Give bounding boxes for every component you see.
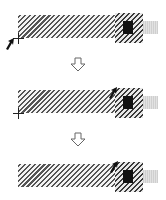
handle-knob bbox=[123, 96, 133, 109]
slider-track[interactable] bbox=[18, 90, 115, 113]
step-3 bbox=[0, 149, 166, 200]
down-arrow-icon bbox=[70, 132, 86, 147]
cursor-arrow-icon bbox=[110, 161, 119, 173]
crosshair-icon bbox=[13, 108, 24, 119]
handle-knob bbox=[123, 21, 133, 34]
step-1 bbox=[0, 0, 166, 50]
handle-tab bbox=[143, 170, 158, 183]
step-2 bbox=[0, 75, 166, 125]
handle-tab bbox=[143, 96, 158, 109]
handle-knob bbox=[123, 170, 133, 183]
cursor-arrow-icon bbox=[109, 87, 118, 99]
down-arrow-icon bbox=[70, 57, 86, 72]
handle-tab bbox=[143, 21, 158, 34]
slider-track[interactable] bbox=[18, 15, 115, 38]
cursor-arrow-icon bbox=[6, 38, 15, 50]
slider-track[interactable] bbox=[18, 164, 115, 187]
